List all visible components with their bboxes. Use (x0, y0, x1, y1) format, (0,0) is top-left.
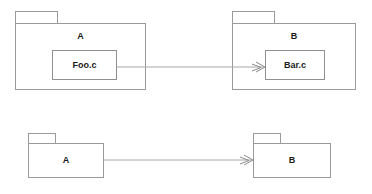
uml-package-diagram: A Foo.c B Bar.c A B (0, 0, 372, 194)
dependency-arrow-a-to-b[interactable] (0, 0, 372, 194)
